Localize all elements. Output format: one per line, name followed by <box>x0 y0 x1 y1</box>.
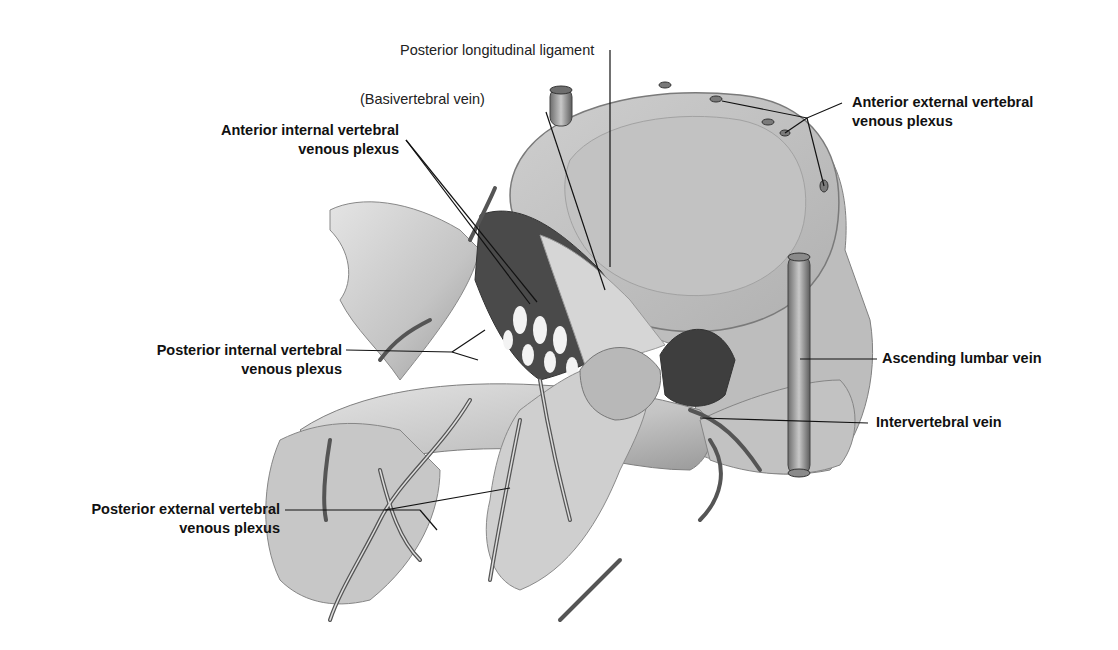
label-ascending-lumbar-vein: Ascending lumbar vein <box>882 349 1042 368</box>
label-posterior-internal-vertebral-venous-plexus: Posterior internal vertebral venous plex… <box>157 341 342 379</box>
label-line-1: Posterior external vertebral <box>91 500 280 519</box>
ascending-lumbar-vein <box>788 255 810 475</box>
label-line-1: Anterior internal vertebral <box>221 121 399 140</box>
label-line-2: venous plexus <box>157 360 342 379</box>
label-posterior-longitudinal-ligament: Posterior longitudinal ligament <box>400 41 594 60</box>
label-anterior-external-vertebral-venous-plexus: Anterior external vertebral venous plexu… <box>852 93 1033 131</box>
label-posterior-external-vertebral-venous-plexus: Posterior external vertebral venous plex… <box>91 500 280 538</box>
label-basivertebral-vein: (Basivertebral vein) <box>360 90 485 109</box>
label-line-1: Anterior external vertebral <box>852 93 1033 112</box>
intervertebral-foramen <box>660 329 735 406</box>
label-line-1: Posterior internal vertebral <box>157 341 342 360</box>
label-line-2: venous plexus <box>852 112 1033 131</box>
label-intervertebral-vein: Intervertebral vein <box>876 413 1002 432</box>
left-inferior-plate <box>266 423 440 603</box>
label-anterior-internal-vertebral-venous-plexus: Anterior internal vertebral venous plexu… <box>221 121 399 159</box>
label-line-2: venous plexus <box>91 519 280 538</box>
label-line-2: venous plexus <box>221 140 399 159</box>
